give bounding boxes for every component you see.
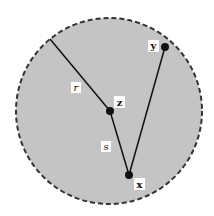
point-z	[106, 107, 114, 115]
label-s: s	[101, 141, 111, 152]
point-x	[125, 171, 133, 179]
label-x: x	[134, 178, 145, 190]
diagram-canvas: r s z x y	[0, 0, 214, 216]
label-z-text: z	[117, 97, 123, 108]
label-y: y	[148, 40, 159, 52]
label-r: r	[71, 82, 81, 93]
label-z: z	[114, 96, 125, 108]
label-y-text: y	[150, 40, 158, 51]
label-s-text: s	[103, 141, 108, 152]
point-y	[161, 43, 169, 51]
label-x-text: x	[137, 179, 144, 190]
